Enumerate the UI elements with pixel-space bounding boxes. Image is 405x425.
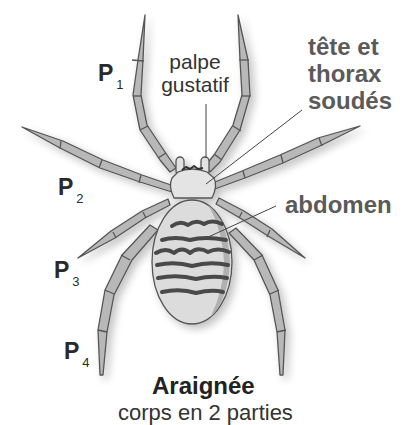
abdomen-label: abdomen [285,193,392,217]
figure-title: Araignée [152,374,255,398]
cephalothorax-line3: soudés [308,87,392,114]
palpe-line2: gustatif [150,73,240,96]
palpe-line1: palpe [150,50,240,73]
cephalothorax-line2: thorax [308,60,392,87]
leg-label-p2: P2 [58,176,84,205]
leg-label-p4: P4 [64,340,90,369]
figure-subtitle: corps en 2 parties [118,402,293,424]
leg-label-p1: P1 [98,62,124,91]
cephalothorax-line1: tête et [308,33,392,60]
palpe-gustatif-label: palpe gustatif [150,50,240,96]
leg-p4-left [98,225,158,375]
leg-p4-right [229,228,286,375]
cephalothorax-label: tête et thorax soudés [308,33,392,114]
leg-label-p3: P3 [54,259,80,288]
